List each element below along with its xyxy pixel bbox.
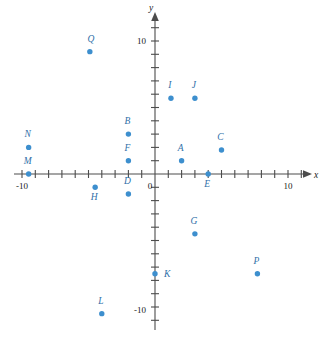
data-point-b: [126, 131, 131, 136]
data-point-l: [99, 311, 104, 316]
data-point-label-g: G: [190, 216, 197, 226]
data-point-d: [126, 191, 131, 196]
data-point-k: [152, 271, 157, 276]
data-point-n: [26, 145, 31, 150]
data-point-label-k: K: [163, 269, 171, 279]
y-axis-arrow-icon: [151, 12, 159, 21]
data-point-label-q: Q: [87, 34, 94, 44]
coordinate-plane-figure: x y 0 -10 10 10 -10 ABCDEFGHIJKLMNPQ: [0, 0, 323, 341]
data-point-label-c: C: [217, 132, 224, 142]
y-tick-label-pos10: 10: [137, 36, 147, 46]
data-point-g: [192, 231, 197, 236]
y-axis-label: y: [148, 3, 154, 13]
data-point-c: [219, 147, 224, 152]
data-point-e: [206, 171, 211, 176]
data-point-label-l: L: [97, 296, 103, 306]
data-point-label-j: J: [192, 80, 197, 90]
y-tick-label-neg10: -10: [134, 305, 146, 315]
data-point-label-m: M: [23, 156, 33, 166]
data-point-label-h: H: [90, 192, 99, 202]
data-point-m: [26, 171, 31, 176]
scatter-plot-svg: x y 0 -10 10 10 -10 ABCDEFGHIJKLMNPQ: [0, 0, 323, 341]
data-point-label-a: A: [177, 143, 184, 153]
data-point-label-n: N: [23, 129, 31, 139]
data-point-f: [126, 158, 131, 163]
x-tick-label-pos10: 10: [284, 181, 294, 191]
x-axis-arrow-icon: [303, 170, 312, 178]
data-point-label-p: P: [253, 256, 260, 266]
data-point-label-e: E: [203, 179, 210, 189]
data-point-q: [87, 49, 92, 54]
data-point-label-b: B: [124, 116, 130, 126]
data-point-label-f: F: [123, 143, 130, 153]
x-axis-label: x: [313, 170, 319, 180]
origin-tick-label: 0: [148, 181, 153, 191]
data-point-h: [92, 185, 97, 190]
data-point-a: [179, 158, 184, 163]
x-tick-label-neg10: -10: [16, 181, 28, 191]
data-point-p: [255, 271, 260, 276]
data-point-label-d: D: [123, 176, 131, 186]
data-point-i: [168, 95, 173, 100]
data-point-j: [192, 95, 197, 100]
data-point-label-i: I: [167, 80, 172, 90]
